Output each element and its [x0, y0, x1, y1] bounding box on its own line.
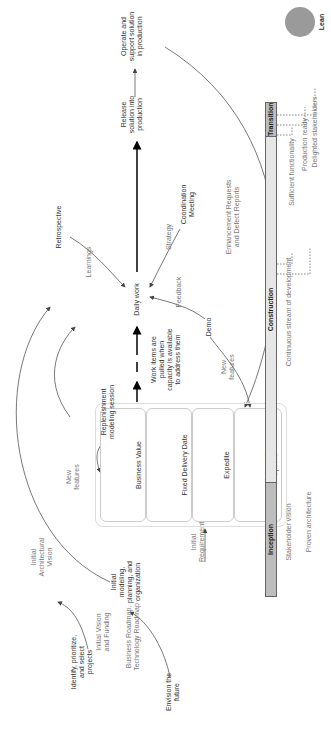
- label-initial-arch-vision: Initial Architectural Vision: [30, 527, 54, 587]
- label-feedback: Feedback: [175, 272, 183, 312]
- node-daily-work: Daily work: [133, 272, 141, 327]
- label-continuous-stream: Continuous stream of development: [285, 247, 293, 377]
- phase-transition: Transition: [265, 102, 277, 137]
- node-demo: Demo: [205, 312, 213, 342]
- label-enhancements: Enhancement Requests and Defect Reports: [225, 167, 241, 267]
- lean-logo-icon: [285, 7, 315, 37]
- node-identify-projects: Identify, prioritize, and select project…: [70, 627, 94, 697]
- node-retrospective: Retrospective: [55, 197, 63, 257]
- label-new-features-demo: New features: [220, 347, 236, 387]
- milestone-delighted-stakeholders: Delighted stakeholders: [311, 87, 319, 177]
- label-initial-requirements: Initial Requirements: [190, 522, 206, 562]
- label-new-features-top: New features: [65, 457, 81, 497]
- label-initial-vision-funding: Initial Vision and Funding: [95, 602, 111, 662]
- milestone-proven-architecture: Proven architecture: [305, 482, 313, 562]
- phase-inception: Inception: [265, 482, 277, 597]
- label-learnings: Learnings: [85, 242, 93, 282]
- node-envision-future: Envision the future: [165, 667, 181, 717]
- node-work-items-pulled: Work items are pulled when capacity is a…: [150, 322, 182, 397]
- node-initial-modeling: Initial modeling, planning, and organiza…: [110, 552, 142, 612]
- label-strategy: Strategy: [165, 217, 173, 257]
- lane-expedite: Expedite: [192, 408, 234, 522]
- logo-label: Lean: [318, 7, 326, 37]
- milestone-stakeholder-vision: Stakeholder vision: [285, 492, 293, 572]
- milestone-sufficient-functionality: Sufficient functionality: [288, 127, 296, 217]
- milestone-production-ready: Production ready: [301, 107, 309, 182]
- lean-lifecycle-diagram: Identify, prioritize, and select project…: [0, 0, 331, 737]
- node-operate: Operate and support solution in producti…: [120, 4, 144, 69]
- phase-construction: Construction: [265, 136, 277, 483]
- lane-fixed-delivery-date: Fixed Delivery Date: [146, 408, 192, 522]
- node-release: Release solution into production: [120, 87, 144, 142]
- node-coordination-meeting: Coordination Meeting: [180, 177, 196, 232]
- node-replenishment: Replenishment modeling session: [100, 377, 116, 447]
- kanban-board: Business Value Fixed Delivery Date Exped…: [95, 403, 287, 527]
